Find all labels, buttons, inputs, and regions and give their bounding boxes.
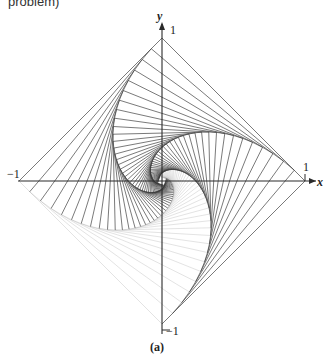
- pursuit-segment: [90, 226, 207, 252]
- pursuit-segment: [108, 230, 211, 236]
- pursuit-segment: [51, 70, 134, 208]
- x-axis-arrow-icon: [309, 178, 316, 184]
- pursuit-segment: [116, 160, 140, 227]
- tick-label-right: 1: [303, 160, 309, 175]
- pursuit-segment: [162, 181, 305, 324]
- pursuit-segment: [189, 154, 272, 292]
- x-axis-label: x: [317, 175, 323, 190]
- tick-label-top: 1: [170, 23, 176, 38]
- tick-label-left: −1: [7, 167, 20, 182]
- pursuit-segment: [19, 38, 162, 181]
- pursuit-segment: [211, 132, 217, 235]
- pursuit-diagram: [0, 0, 328, 358]
- pursuit-segment: [51, 208, 189, 291]
- figure-caption: (a): [150, 340, 164, 355]
- pursuit-segment: [135, 70, 273, 153]
- pursuit-segment: [19, 181, 162, 324]
- pursuit-segment: [207, 136, 233, 253]
- y-axis-label: y: [157, 9, 162, 24]
- pursuit-segment: [162, 38, 305, 181]
- pursuit-segment: [90, 109, 116, 226]
- pursuit-segment: [113, 127, 216, 133]
- pursuit-segment: [141, 202, 208, 226]
- pursuit-segment: [183, 135, 207, 202]
- pursuit-segment: [117, 109, 234, 135]
- pursuit-segment: [116, 135, 183, 159]
- tick-label-bottom: −1: [166, 324, 179, 339]
- pursuit-segment: [108, 127, 114, 230]
